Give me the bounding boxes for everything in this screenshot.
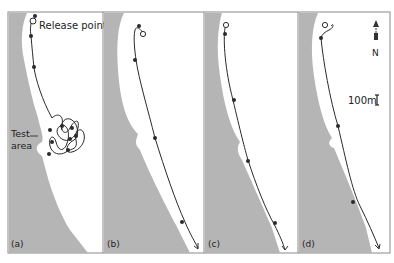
- track-dot: [336, 124, 340, 128]
- track-dot: [153, 136, 157, 140]
- track-dot: [33, 14, 37, 18]
- track-dot: [223, 32, 227, 36]
- release-circle-b: [140, 31, 145, 36]
- release-circle-c: [223, 22, 228, 27]
- track-dot: [32, 65, 36, 69]
- scale-label: 100m: [348, 95, 377, 106]
- track-dot: [133, 58, 137, 62]
- track-dot: [47, 152, 51, 156]
- track-dot: [29, 34, 33, 38]
- panel-label-a: (a): [11, 239, 24, 249]
- track-dot: [60, 124, 64, 128]
- panel-label-c: (c): [208, 239, 220, 249]
- track-dot: [246, 159, 250, 163]
- release-circle-a: [30, 18, 36, 24]
- test-area-label-line1: Test: [10, 128, 30, 139]
- track-dot: [351, 200, 355, 204]
- track-dot: [319, 36, 323, 40]
- release-point-label: Release point: [39, 20, 107, 31]
- track-dot: [137, 24, 141, 28]
- track-dot: [74, 134, 78, 138]
- track-dot: [68, 137, 72, 141]
- track-dot: [273, 221, 277, 225]
- release-circle-d: [322, 22, 327, 27]
- track-dot: [50, 140, 54, 144]
- north-label: N: [372, 48, 379, 58]
- track-dot: [66, 148, 70, 152]
- panel-label-b: (b): [107, 239, 120, 249]
- panel-label-d: (d): [302, 239, 315, 249]
- track-dot: [70, 126, 74, 130]
- tracking-figure: Release point Test area (a) (b) (c): [0, 0, 394, 263]
- track-dot: [48, 128, 52, 132]
- track-dot: [232, 98, 236, 102]
- test-area-label-line2: area: [11, 140, 32, 151]
- track-dot: [180, 220, 184, 224]
